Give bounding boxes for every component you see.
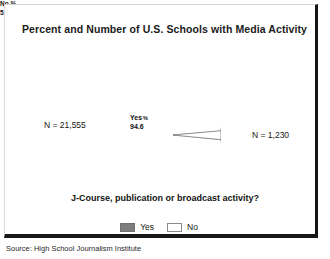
legend-label-no: No [187, 222, 198, 232]
annotation-n-no: N = 1,230 [252, 130, 289, 140]
source-note: Source: High School Journalism Institute [6, 244, 141, 253]
category-axis-label: J-Course, publication or broadcast activ… [65, 193, 265, 205]
legend-item-no: No [167, 222, 198, 232]
pie-label-yes: Yes% 94.6 [130, 114, 148, 131]
pie-label-yes-name: Yes [130, 114, 142, 121]
legend-swatch-no-icon [167, 223, 182, 232]
pie-label-yes-value: 94.6 [130, 123, 144, 130]
chart-title: Percent and Number of U.S. Schools with … [22, 23, 302, 35]
legend-item-yes: Yes [120, 222, 154, 232]
legend-swatch-yes-icon [120, 223, 135, 232]
pie-slice-no [173, 131, 221, 140]
legend-label-yes: Yes [140, 222, 154, 232]
annotation-n-yes: N = 21,555 [44, 120, 86, 130]
chart-legend: Yes No [0, 222, 318, 232]
chart-figure: Percent and Number of U.S. Schools with … [0, 0, 330, 259]
pie-svg [125, 87, 221, 183]
pie-chart [125, 87, 221, 183]
pie-label-yes-percent-symbol: % [143, 115, 148, 121]
